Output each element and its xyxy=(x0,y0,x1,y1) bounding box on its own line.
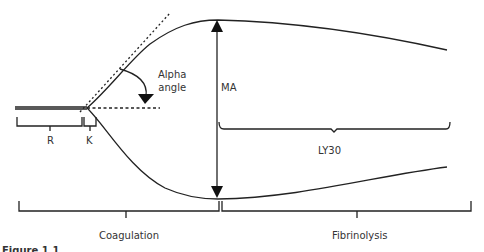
figure-caption: Figure 1.1 xyxy=(2,244,59,252)
ma-arrowhead-down-icon xyxy=(211,186,223,198)
alpha-arrowhead-icon xyxy=(138,94,154,104)
fibrinolysis-label: Fibrinolysis xyxy=(332,230,387,241)
ly30-bracket xyxy=(219,122,450,132)
ma-arrowhead-up-icon xyxy=(211,20,223,32)
lower-trace xyxy=(87,108,447,199)
coagulation-bracket xyxy=(19,201,219,218)
fibrinolysis-bracket xyxy=(222,201,471,218)
teg-diagram xyxy=(0,0,484,252)
k-label: K xyxy=(86,135,93,146)
coagulation-label: Coagulation xyxy=(99,230,159,241)
alpha-angle-arc xyxy=(120,69,146,96)
ly30-label: LY30 xyxy=(318,145,341,156)
r-label: R xyxy=(47,135,54,146)
alpha-label-line1: Alpha xyxy=(158,68,186,81)
r-bracket xyxy=(17,117,82,131)
k-bracket xyxy=(84,117,96,131)
tangent-line xyxy=(80,13,170,112)
alpha-label-line2: angle xyxy=(158,81,186,94)
ma-label: MA xyxy=(221,82,236,93)
